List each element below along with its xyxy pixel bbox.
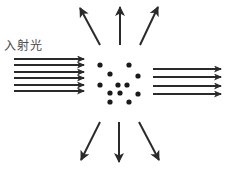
scattered-arrow-down-right-icon (139, 122, 159, 160)
scattered-arrow-down-left-icon (81, 122, 100, 160)
incident-arrows (14, 59, 84, 91)
scattered-arrow-up-left-icon (80, 8, 100, 45)
particle-dot (107, 99, 112, 104)
particle-dot (97, 62, 102, 67)
particle-dot (126, 62, 131, 67)
particle-dot (107, 71, 112, 76)
particle-dot (135, 73, 140, 78)
particle-dot (117, 90, 122, 95)
particle-dot (126, 99, 131, 104)
particle-dot (97, 82, 102, 87)
particle-dot (124, 82, 129, 87)
particle-dot (115, 82, 120, 87)
particle-dot (107, 90, 112, 95)
scattered-arrow-up-right-icon (140, 7, 158, 45)
scattering-particles (97, 62, 140, 104)
transmitted-arrows (153, 69, 221, 94)
particle-dot (135, 91, 140, 96)
diagram-canvas (0, 0, 225, 176)
